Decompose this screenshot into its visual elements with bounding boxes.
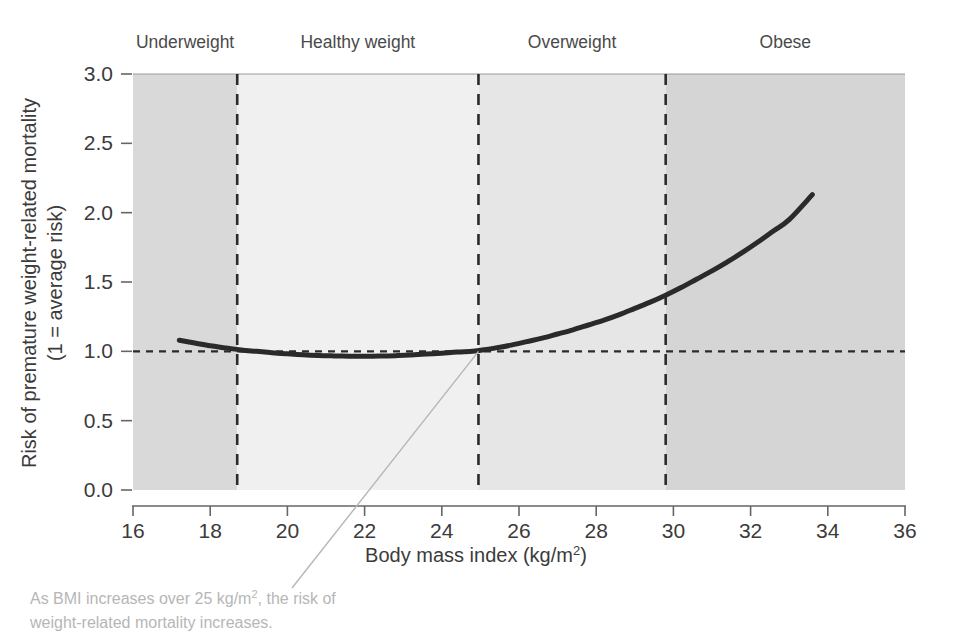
- y-axis-tick-label: 0.5: [84, 409, 113, 432]
- y-axis-title: Risk of premature weight-related mortali…: [18, 98, 66, 468]
- x-axis-tick-label: 30: [662, 519, 685, 542]
- y-axis: 0.00.51.01.52.02.53.0: [84, 62, 132, 501]
- category-label-underweight: Underweight: [136, 32, 234, 52]
- x-axis-tick-label: 24: [430, 519, 454, 542]
- x-axis-title-superscript: 2: [573, 543, 580, 558]
- x-axis-tick-label: 36: [893, 519, 916, 542]
- annotation-caption-line2: weight-related mortality increases.: [29, 614, 273, 631]
- annotation-caption: As BMI increases over 25 kg/m2, the risk…: [29, 588, 336, 631]
- x-axis-tick-label: 16: [121, 519, 144, 542]
- y-axis-tick-label: 0.0: [84, 478, 113, 501]
- category-band-labels: UnderweightHealthy weightOverweightObese: [136, 32, 811, 52]
- annotation-caption-line1-base: As BMI increases over 25 kg/m: [30, 590, 251, 607]
- chart-svg: 1618202224262830323436 0.00.51.01.52.02.…: [0, 0, 953, 643]
- category-label-obese: Obese: [760, 32, 812, 52]
- annotation-caption-line1-tail: , the risk of: [258, 590, 337, 607]
- x-axis-tick-label: 32: [739, 519, 762, 542]
- y-axis-tick-label: 1.5: [84, 270, 113, 293]
- x-axis: 1618202224262830323436: [121, 506, 916, 542]
- band-obese: [666, 74, 905, 490]
- x-axis-tick-labels: 1618202224262830323436: [121, 519, 916, 542]
- annotation-caption-line1: As BMI increases over 25 kg/m2, the risk…: [30, 588, 336, 607]
- y-axis-ticks: [121, 74, 132, 490]
- x-axis-title-tail: ): [580, 544, 587, 566]
- x-axis-tick-label: 20: [276, 519, 299, 542]
- x-axis-tick-label: 34: [816, 519, 840, 542]
- y-axis-tick-label: 1.0: [84, 339, 113, 362]
- x-axis-tick-label: 26: [507, 519, 530, 542]
- band-overweight: [478, 74, 665, 490]
- x-axis-tick-label: 28: [585, 519, 608, 542]
- x-axis-title-base: Body mass index (kg/m: [365, 544, 573, 566]
- band-healthy-weight: [237, 74, 478, 490]
- y-axis-tick-label: 3.0: [84, 62, 113, 85]
- category-label-healthy-weight: Healthy weight: [300, 32, 415, 52]
- y-axis-tick-label: 2.5: [84, 131, 113, 154]
- bmi-mortality-risk-figure: 1618202224262830323436 0.00.51.01.52.02.…: [0, 0, 953, 643]
- category-bands: [133, 74, 905, 490]
- y-axis-tick-labels: 0.00.51.01.52.02.53.0: [84, 62, 113, 501]
- y-axis-tick-label: 2.0: [84, 201, 113, 224]
- band-underweight: [133, 74, 237, 490]
- x-axis-tick-label: 18: [199, 519, 222, 542]
- x-axis-tick-label: 22: [353, 519, 376, 542]
- x-axis-title: Body mass index (kg/m2): [365, 543, 587, 566]
- x-axis-ticks: [133, 506, 905, 516]
- y-axis-title-line1: Risk of premature weight-related mortali…: [18, 98, 40, 468]
- category-label-overweight: Overweight: [528, 32, 617, 52]
- y-axis-title-line2: (1 = average risk): [44, 205, 66, 361]
